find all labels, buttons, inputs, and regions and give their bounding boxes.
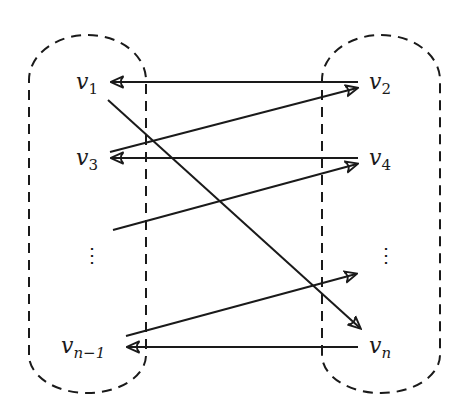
vertex-label-v2: v2 <box>369 69 391 98</box>
edge-vn1-to-dots <box>126 274 356 336</box>
vertex-label-vdots-left: ⋮ <box>82 243 102 267</box>
edge-v3-to-v2 <box>110 88 357 152</box>
edge-dots-to-v4 <box>113 164 357 230</box>
vertex-label-v3: v3 <box>76 145 98 174</box>
graph-diagram: v1 v3 ⋮ vn−1 v2 v4 ⋮ vn <box>0 0 465 409</box>
vertex-label-v4: v4 <box>369 145 391 174</box>
vertex-label-vn-1: vn−1 <box>61 333 105 362</box>
vertex-label-v1: v1 <box>76 69 98 98</box>
vertex-label-vdots-right: ⋮ <box>376 243 396 267</box>
vertex-label-vn: vn <box>369 333 391 362</box>
